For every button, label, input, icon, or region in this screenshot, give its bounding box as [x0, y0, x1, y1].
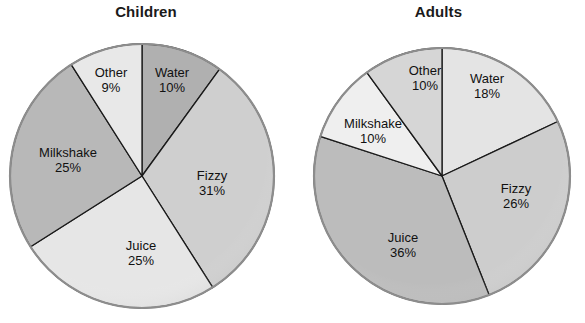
two-pie-chart-figure: Children Water10%Fizzy31%Juice25%Milksha… — [0, 0, 585, 323]
adults-pie-panel: Adults Water18%Fizzy26%Juice36%Milkshake… — [292, 0, 585, 323]
children-pie-panel: Children Water10%Fizzy31%Juice25%Milksha… — [0, 0, 292, 323]
children-pie-area: Water10%Fizzy31%Juice25%Milkshake25%Othe… — [0, 0, 292, 323]
children-pie-svg — [0, 0, 292, 323]
adults-pie-area: Water18%Fizzy26%Juice36%Milkshake10%Othe… — [292, 0, 585, 323]
adults-pie-svg — [292, 0, 585, 323]
